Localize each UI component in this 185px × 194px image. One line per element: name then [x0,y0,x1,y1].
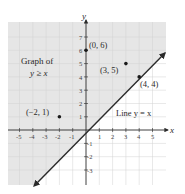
svg-text:-1: -1 [87,140,92,147]
point-3-5 [124,62,128,66]
svg-text:-3: -3 [87,167,92,174]
label-0-6: (0, 6) [89,40,108,50]
svg-text:3: 3 [79,87,82,94]
inequality-graph: x y -5 -4 -3 -2 -1 1 2 3 4 5 7 6 5 4 3 2… [0,0,185,194]
y-axis-label: y [81,11,86,21]
line-label: Line y = x [116,108,152,118]
svg-text:-3: -3 [42,133,47,140]
svg-text:-1: -1 [69,133,74,140]
svg-text:2: 2 [111,133,114,140]
svg-text:-2: -2 [55,133,60,140]
inequality-label: y ≥ x [29,68,47,78]
svg-text:4: 4 [137,133,141,140]
graph-of-label: Graph of [21,56,53,66]
x-axis-label: x [169,125,174,135]
svg-text:2: 2 [79,100,82,107]
svg-text:5: 5 [79,60,82,67]
label-3-5: (3, 5) [100,65,119,75]
svg-text:1: 1 [98,133,101,140]
svg-text:-2: -2 [87,153,92,160]
label-4-4: (4, 4) [140,79,159,89]
svg-text:1: 1 [79,113,82,120]
svg-text:5: 5 [151,133,154,140]
svg-text:-5: -5 [16,133,21,140]
label-neg2-1: (−2, 1) [26,107,49,117]
point-0-6 [84,49,88,53]
point-neg2-1 [58,115,62,119]
svg-text:3: 3 [124,133,127,140]
svg-text:-4: -4 [29,133,35,140]
